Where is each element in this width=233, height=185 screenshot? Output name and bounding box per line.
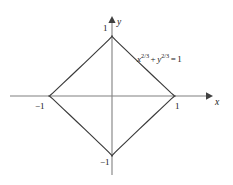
equation-exponent-y: 2/3	[161, 52, 169, 59]
y-axis-arrowhead	[108, 16, 115, 23]
y-axis-label: y	[117, 18, 121, 28]
equation-operator: +	[149, 54, 157, 64]
plot-canvas	[0, 0, 233, 185]
equation-right-side: 1	[177, 54, 182, 64]
astroid-figure: 1 −1 1 −1 y x x2/3+y2/3=1	[0, 0, 233, 185]
x-axis-label: x	[215, 98, 219, 108]
y-tick-label-positive-one: 1	[103, 24, 108, 33]
x-axis-arrowhead	[206, 92, 213, 99]
x-tick-label-positive-one: 1	[175, 102, 180, 111]
x-tick-label-negative-one: −1	[35, 102, 45, 111]
equation-exponent-x: 2/3	[141, 52, 149, 59]
y-tick-label-negative-one: −1	[100, 158, 110, 167]
curve-equation-label: x2/3+y2/3=1	[137, 55, 182, 64]
